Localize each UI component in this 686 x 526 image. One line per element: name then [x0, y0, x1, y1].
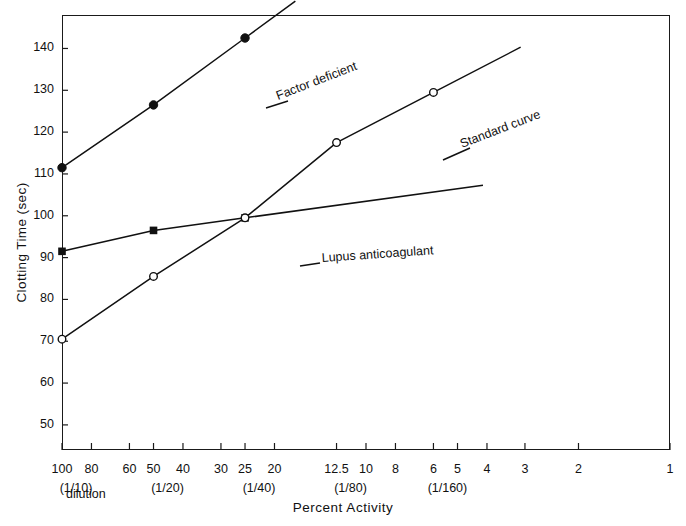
data-point-marker	[58, 163, 66, 171]
lupus-anticoagulant-label: Lupus anticoagulant	[321, 243, 434, 265]
chart-figure: Clotting Time (sec) Percent Activity dil…	[0, 0, 686, 526]
data-series-layer	[58, 1, 521, 343]
factor-deficient-label: Factor deficient	[274, 59, 359, 103]
data-point-marker	[333, 139, 341, 147]
data-point-marker	[430, 89, 438, 97]
data-point-marker	[150, 273, 158, 281]
data-point-marker	[149, 101, 157, 109]
annotation-layer: Factor deficientStandard curveLupus anti…	[266, 59, 542, 266]
data-point-marker	[150, 227, 158, 235]
data-point-marker	[58, 335, 66, 343]
data-point-marker	[58, 248, 66, 256]
data-point-marker	[241, 34, 249, 42]
series-factor-deficient	[58, 1, 296, 172]
standard-curve-label: Standard curve	[458, 107, 542, 150]
chart-canvas: Factor deficientStandard curveLupus anti…	[0, 0, 686, 526]
data-point-marker	[241, 214, 249, 222]
